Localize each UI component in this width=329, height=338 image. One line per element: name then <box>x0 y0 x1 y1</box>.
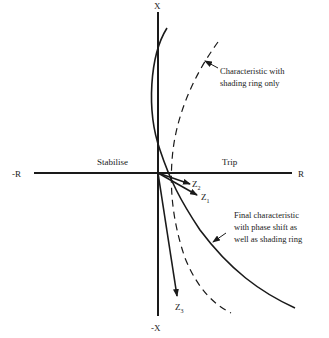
r-neg-label: -R <box>12 169 21 179</box>
z3-label: Z3 <box>175 302 184 314</box>
dashed-annotation-pointer <box>205 61 218 68</box>
z1-label: Z1 <box>201 192 210 204</box>
dashed-curve-annotation: Characteristic with shading ring only <box>220 66 287 88</box>
relay-characteristic-diagram: X -X -R R Stabilise Trip Z2 Z1 Z3 Charac… <box>0 0 329 338</box>
r-pos-label: R <box>298 169 304 179</box>
trip-label: Trip <box>222 157 238 167</box>
z2-label: Z2 <box>192 179 201 191</box>
solid-annotation-pointer <box>213 233 226 242</box>
z3-vector <box>158 173 177 296</box>
x-pos-label: X <box>154 1 161 11</box>
solid-curve-annotation: Final characteristic with phase shift as… <box>234 210 303 244</box>
stabilise-label: Stabilise <box>97 157 128 167</box>
x-neg-label: -X <box>151 323 161 333</box>
